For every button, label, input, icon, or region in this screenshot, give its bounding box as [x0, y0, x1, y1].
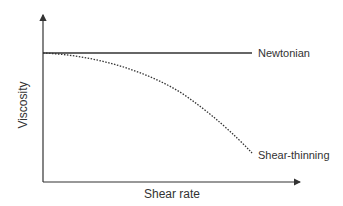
- shear-thinning-curve: [43, 53, 252, 153]
- shear-thinning-label: Shear-thinning: [258, 149, 330, 161]
- y-axis-label: Viscosity: [16, 81, 30, 128]
- viscosity-shear-rate-diagram: Newtonian Shear-thinning Shear rate Visc…: [0, 0, 343, 206]
- newtonian-label: Newtonian: [258, 47, 310, 59]
- x-axis-label: Shear rate: [144, 187, 200, 201]
